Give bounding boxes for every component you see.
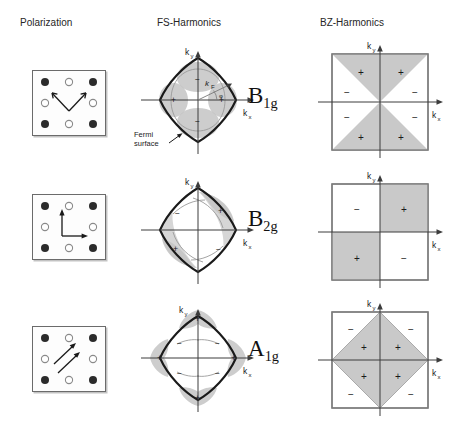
axis-kx-sublabel: x bbox=[249, 244, 252, 250]
axis-kx-label: k bbox=[243, 108, 248, 118]
axis-kx-label: k bbox=[432, 110, 437, 120]
bz-sign-cell: + bbox=[358, 132, 364, 143]
fs-sign-right: + bbox=[219, 95, 224, 105]
axis-ky-label: k bbox=[367, 299, 372, 309]
polarization-a1g bbox=[32, 326, 106, 392]
bz-sign-cell: − bbox=[354, 204, 360, 215]
axis-ky-label: k bbox=[185, 47, 190, 57]
axis-ky-label: k bbox=[367, 41, 372, 51]
axis-ky-arrowhead bbox=[377, 45, 383, 52]
fs-sign-lower-right: − bbox=[216, 244, 221, 254]
axis-ky-sublabel: y bbox=[373, 47, 376, 53]
symmetry-letter: B bbox=[248, 83, 263, 108]
fs-sign-top: + bbox=[195, 314, 200, 324]
fs-diagram-b1g: k F φ k y k x − − + + Fermi surface bbox=[133, 36, 263, 164]
polarization-arrows bbox=[59, 209, 88, 239]
axis-ky-sublabel: y bbox=[185, 311, 188, 317]
bz-sign-cell: + bbox=[361, 342, 367, 353]
fs-sign-right: + bbox=[231, 353, 236, 363]
axis-kx-label: k bbox=[432, 368, 437, 378]
fs-sign-diag-lr: − bbox=[215, 368, 220, 378]
fs-harmonic-b2g: k y k x + − + − bbox=[133, 166, 263, 294]
bz-sign-cell: − bbox=[408, 389, 414, 400]
axis-ky-sublabel: y bbox=[373, 305, 376, 311]
symmetry-label-a1g: A1g bbox=[248, 336, 279, 362]
symmetry-subscript: 1g bbox=[265, 348, 279, 364]
axis-kx-sublabel: x bbox=[249, 114, 252, 120]
polarization-b1g bbox=[32, 70, 106, 136]
atom-filled bbox=[41, 334, 49, 342]
axis-ky-label: k bbox=[367, 171, 372, 181]
kf-sublabel: F bbox=[211, 84, 215, 90]
fs-sign-left: + bbox=[157, 353, 162, 363]
fermi-surface-label-line1: Fermi bbox=[134, 130, 153, 139]
atom-filled bbox=[89, 376, 97, 384]
atom-filled bbox=[89, 202, 97, 210]
bz-sign-cell: − bbox=[412, 87, 418, 98]
atom-open bbox=[41, 355, 48, 362]
atom-open bbox=[89, 223, 96, 230]
axis-ky-arrowhead bbox=[377, 175, 383, 182]
figure-row-b2g: k y k x + − + − B2g k y k x − + + bbox=[0, 166, 454, 294]
atom-open bbox=[65, 244, 72, 251]
atom-filled bbox=[89, 334, 97, 342]
bz-sign-cell: − bbox=[348, 324, 354, 335]
bz-sign-cell: − bbox=[344, 87, 350, 98]
axis-kx-sublabel: x bbox=[438, 246, 441, 252]
fs-sign-lower-left: + bbox=[173, 244, 178, 254]
atom-filled bbox=[89, 244, 97, 252]
axis-kx-sublabel: x bbox=[438, 374, 441, 380]
axis-ky-sublabel: y bbox=[191, 183, 194, 189]
bz-sign-cell: + bbox=[361, 371, 367, 382]
polarization-arrows bbox=[52, 93, 86, 111]
bz-sign-cell: + bbox=[354, 253, 360, 264]
fermi-surface-label-line2: surface bbox=[134, 139, 159, 148]
atom-open bbox=[65, 78, 72, 85]
atom-open bbox=[65, 376, 72, 383]
column-header-bz-harmonics: BZ-Harmonics bbox=[320, 17, 384, 28]
fs-sign-left: + bbox=[171, 95, 176, 105]
axis-kx-arrowhead bbox=[437, 357, 444, 363]
axis-ky-arrowhead bbox=[377, 303, 383, 310]
bz-diagram-b1g: k y k x + + − − − − + + bbox=[310, 36, 450, 164]
bz-sign-cell: + bbox=[398, 132, 404, 143]
fs-sign-bottom: − bbox=[195, 116, 200, 126]
atom-open bbox=[89, 99, 96, 106]
bz-sign-cell: − bbox=[401, 253, 407, 264]
atom-open bbox=[41, 99, 48, 106]
axis-ky-sublabel: y bbox=[373, 177, 376, 183]
polarization-lattice-a1g bbox=[32, 326, 106, 392]
fs-sign-upper-right: + bbox=[218, 206, 223, 216]
polarization-lattice-b2g bbox=[32, 194, 106, 260]
fs-harmonic-b1g: k F φ k y k x − − + + Fermi surface bbox=[133, 36, 263, 164]
atom-filled bbox=[89, 120, 97, 128]
fs-sign-diag-ul: − bbox=[177, 338, 182, 348]
bz-sign-cell: − bbox=[348, 389, 354, 400]
fs-sign-top: − bbox=[195, 74, 200, 84]
atom-filled bbox=[41, 244, 49, 252]
symmetry-letter: A bbox=[248, 336, 265, 361]
atom-open bbox=[41, 223, 48, 230]
symmetry-subscript: 2g bbox=[263, 218, 277, 234]
atom-filled bbox=[41, 376, 49, 384]
symmetry-label-b1g: B1g bbox=[248, 83, 278, 109]
axis-kx-arrowhead bbox=[437, 229, 444, 235]
bz-harmonic-b1g: k y k x + + − − − − + + bbox=[310, 36, 450, 164]
bz-harmonic-a1g: k y k x + + + + − − − − bbox=[310, 294, 450, 422]
fs-diagram-a1g: k y k x + + + + − − − − bbox=[133, 294, 263, 422]
atom-open bbox=[65, 120, 72, 127]
axis-kx-arrowhead bbox=[437, 99, 444, 105]
fs-harmonic-a1g: k y k x + + + + − − − − bbox=[133, 294, 263, 422]
atom-open bbox=[65, 202, 72, 209]
bz-sign-cell: − bbox=[408, 324, 414, 335]
fs-sign-diag-ll: − bbox=[177, 368, 182, 378]
atom-filled bbox=[41, 202, 49, 210]
bz-diagram-b2g: k y k x − + + − bbox=[310, 166, 450, 294]
axis-ky-arrowhead bbox=[195, 51, 201, 58]
axis-ky-label: k bbox=[179, 305, 184, 315]
axis-ky-sublabel: y bbox=[191, 53, 194, 59]
fs-diagram-b2g: k y k x + − + − bbox=[133, 166, 263, 294]
polarization-b2g bbox=[32, 194, 106, 260]
axis-kx-sublabel: x bbox=[249, 372, 252, 378]
atom-open bbox=[65, 334, 72, 341]
